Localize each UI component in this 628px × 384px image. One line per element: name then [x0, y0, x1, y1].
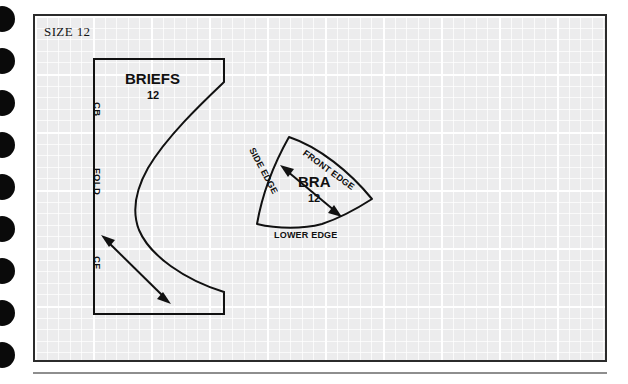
bra-title: BRA	[298, 173, 331, 190]
binder-hole	[0, 48, 15, 74]
briefs-center-back-label: CB	[92, 102, 103, 116]
briefs-center-front-label: CF	[92, 256, 103, 269]
binder-hole	[0, 132, 15, 158]
binder-hole	[0, 174, 15, 200]
briefs-title: BRIEFS	[125, 70, 180, 87]
briefs-size: 12	[147, 89, 159, 101]
binder-hole	[0, 216, 15, 242]
binder-hole	[0, 6, 15, 32]
briefs-fold-label: FOLD	[92, 168, 103, 195]
bra-lower-edge-label: LOWER EDGE	[274, 230, 338, 240]
binder-hole	[0, 90, 15, 116]
binder-hole	[0, 342, 15, 368]
briefs-grainline-arrow	[101, 235, 171, 304]
binder-hole	[0, 258, 15, 284]
pattern-sheet-page: SIZE 12 BRIEFS 12 CB	[0, 0, 628, 384]
binder-hole	[0, 300, 15, 326]
bra-size: 12	[308, 192, 320, 204]
page-divider-rule	[33, 372, 607, 374]
pattern-frame: SIZE 12 BRIEFS 12 CB	[33, 14, 607, 362]
